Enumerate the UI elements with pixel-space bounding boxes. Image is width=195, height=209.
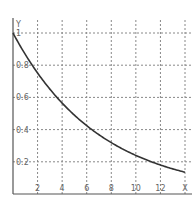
data-curve	[13, 33, 185, 172]
x-tick-label: 2	[35, 184, 40, 193]
y-tick-label: 0.2	[16, 158, 29, 167]
y-tick-label: 0.4	[16, 126, 29, 135]
x-tick-label: 6	[84, 184, 89, 193]
x-tick-label: 12	[155, 184, 165, 193]
y-tick-label: 1	[16, 29, 21, 38]
x-tick-label: 10	[131, 184, 141, 193]
x-axis-label: X	[182, 184, 188, 193]
x-tick-label: 4	[60, 184, 65, 193]
y-axis-label: Y	[15, 20, 21, 29]
y-tick-label: 0.6	[16, 93, 29, 102]
chart: 0.20.40.60.8124681012YX	[0, 0, 195, 209]
x-tick-label: 8	[109, 184, 114, 193]
y-tick-label: 0.8	[16, 61, 29, 70]
